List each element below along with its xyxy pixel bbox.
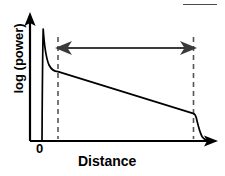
plot-canvas xyxy=(0,0,225,176)
y-axis-label: log (power) xyxy=(12,14,25,104)
figure-container: log (power) Distance 0 xyxy=(0,0,225,176)
x-axis-tick-label-zero: 0 xyxy=(36,142,43,155)
x-axis-label: Distance xyxy=(78,154,136,168)
